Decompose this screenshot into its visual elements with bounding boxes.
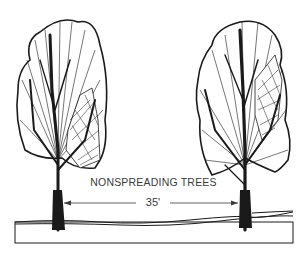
illustration	[0, 0, 307, 256]
right-tree	[196, 21, 290, 230]
left-tree	[17, 20, 107, 230]
spacing-dimension-label: 35'	[138, 196, 168, 208]
figure-caption: NONSPREADING TREES	[0, 176, 307, 188]
